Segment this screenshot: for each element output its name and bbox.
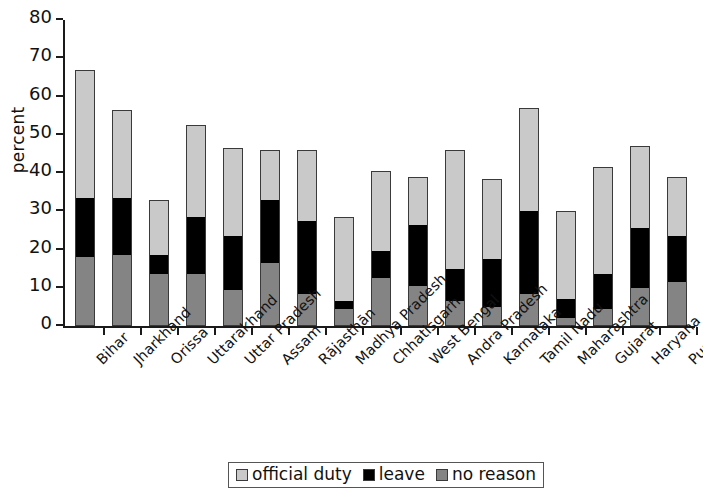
x-axis-tick — [214, 327, 216, 335]
bar-segment — [334, 217, 354, 301]
y-axis-tick: 0 — [56, 324, 63, 326]
bar-segment — [223, 148, 243, 236]
bar-segment — [75, 257, 95, 326]
legend-swatch — [236, 469, 248, 481]
x-axis-tick-label: Uttarakhand — [205, 357, 216, 368]
stacked-bar — [334, 217, 354, 326]
bar-segment — [75, 70, 95, 198]
y-axis-tick: 30 — [56, 209, 63, 211]
x-axis-tick — [325, 327, 327, 335]
x-axis-tick-label: Madhya Pradesh — [353, 357, 364, 368]
x-axis-tick-label: Chhatisgarh — [390, 357, 401, 368]
stacked-bar — [186, 125, 206, 326]
bar-segment — [630, 146, 650, 228]
x-axis-tick-label: Jharkhand — [131, 357, 142, 368]
bar-segment — [149, 255, 169, 274]
y-axis-line — [63, 20, 65, 327]
legend-label: official duty — [252, 465, 352, 484]
stacked-bar — [223, 148, 243, 326]
stacked-bar — [667, 177, 687, 326]
bar-segment — [112, 110, 132, 198]
bar-segment — [630, 228, 650, 287]
bar-segment — [445, 150, 465, 269]
y-axis-tick-label: 0 — [41, 313, 52, 333]
bar-segment — [482, 179, 502, 259]
stacked-bar — [556, 211, 576, 326]
legend-swatch — [436, 469, 448, 481]
y-axis-tick-label: 80 — [29, 7, 52, 27]
bar-segment — [371, 251, 391, 278]
stacked-bar — [371, 171, 391, 326]
bar-segment — [223, 236, 243, 290]
bar-segment — [260, 150, 280, 200]
bar-segment — [297, 221, 317, 294]
y-axis-tick: 40 — [56, 171, 63, 173]
y-axis-tick-label: 20 — [29, 237, 52, 257]
plot-area: 01020304050607080 BiharJharkhandOrissaUt… — [63, 20, 693, 326]
x-axis-tick-label: Orissa — [168, 357, 179, 368]
bar-segment — [408, 177, 428, 225]
x-axis-tick-label: Tamil Nadu — [538, 357, 549, 368]
legend-entry: leave — [363, 465, 425, 484]
bar-segment — [186, 125, 206, 217]
y-axis-tick-label: 30 — [29, 198, 52, 218]
bar-segment — [334, 301, 354, 309]
legend-entry: official duty — [236, 465, 352, 484]
legend-swatch — [363, 469, 375, 481]
y-axis-tick-label: 70 — [29, 45, 52, 65]
x-axis-tick-label: West Bengal — [427, 357, 438, 368]
legend-label: leave — [379, 465, 425, 484]
x-axis-tick-label: Uttar Pradesh — [242, 357, 253, 368]
x-axis-tick — [140, 327, 142, 335]
bar-segment — [149, 274, 169, 326]
x-axis-tick-label: Gujarat — [612, 357, 623, 368]
y-axis-tick: 70 — [56, 56, 63, 58]
y-axis-tick-label: 40 — [29, 160, 52, 180]
stacked-bar — [112, 110, 132, 326]
y-axis-tick: 10 — [56, 286, 63, 288]
bar-segment — [408, 225, 428, 286]
x-axis-tick — [103, 327, 105, 335]
stacked-bar — [75, 70, 95, 326]
bar-segment — [186, 217, 206, 274]
y-axis-title: percent — [8, 70, 28, 210]
bar-segment — [667, 177, 687, 236]
y-axis-tick: 80 — [56, 18, 63, 20]
bar-segment — [149, 200, 169, 255]
x-axis-tick-label: Punjab — [686, 357, 697, 368]
y-axis-tick: 60 — [56, 95, 63, 97]
bar-segment — [519, 211, 539, 293]
x-axis-tick-label: Assam — [279, 357, 290, 368]
x-axis-tick-label: Bihar — [94, 357, 105, 368]
stacked-bar-chart-figure: percent 01020304050607080 BiharJharkhand… — [0, 0, 703, 491]
bar-segment — [75, 198, 95, 257]
bar-segment — [112, 198, 132, 255]
bar-segment — [519, 108, 539, 211]
legend-label: no reason — [452, 465, 536, 484]
x-axis-tick-label: Maharashtra — [575, 357, 586, 368]
x-axis-tick-label: Andra Pradesh — [464, 357, 475, 368]
bar-segment — [593, 167, 613, 274]
bar-segment — [260, 200, 280, 263]
stacked-bar — [149, 200, 169, 326]
bar-segment — [556, 211, 576, 299]
y-axis-tick: 20 — [56, 248, 63, 250]
chart-legend: official dutyleaveno reason — [228, 462, 544, 488]
x-axis-tick-label: Karnataka — [501, 357, 512, 368]
x-axis-tick-label: Rājasthān — [316, 357, 327, 368]
y-axis-tick-label: 10 — [29, 275, 52, 295]
x-axis-tick-label: Haryana — [649, 357, 660, 368]
bar-segment — [371, 171, 391, 251]
bar-segment — [297, 150, 317, 221]
legend-entry: no reason — [436, 465, 536, 484]
y-axis-tick-label: 50 — [29, 122, 52, 142]
bar-segment — [112, 255, 132, 326]
bar-segment — [667, 236, 687, 282]
y-axis-tick-label: 60 — [29, 84, 52, 104]
y-axis-tick: 50 — [56, 133, 63, 135]
